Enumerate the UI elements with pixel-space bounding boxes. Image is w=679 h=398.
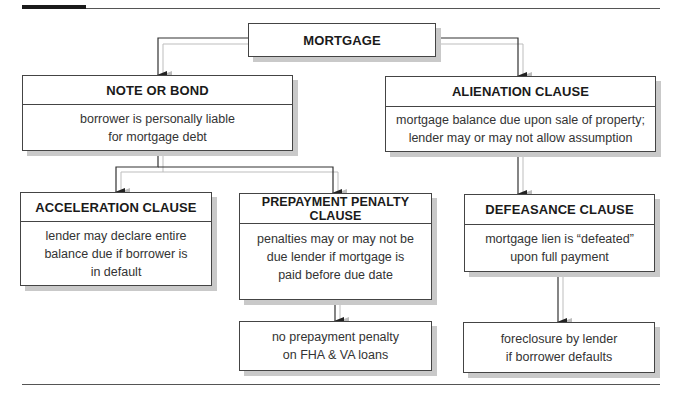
mortgage-title: MORTGAGE [249,24,435,56]
acceleration-clause-title: ACCELERATION CLAUSE [21,193,211,222]
alienation-line-2: lender may or may not allow assumption [396,129,645,147]
no-prepayment-line-2: on FHA & VA loans [272,346,399,364]
defeasance-line-1: mortgage lien is “defeated” [485,230,634,248]
no-prepayment-line-1: no prepayment penalty [272,328,399,346]
note-or-bond-line-2: for mortgage debt [80,128,235,146]
note-or-bond-description: borrower is personally liable for mortga… [23,105,292,150]
defeasance-clause-node: DEFEASANCE CLAUSE mortgage lien is “defe… [464,194,655,272]
defeasance-line-2: upon full payment [485,248,634,266]
alienation-clause-description: mortgage balance due upon sale of proper… [386,107,655,151]
note-or-bond-node: NOTE OR BOND borrower is personally liab… [22,75,293,151]
prepayment-line-3: paid before due date [257,266,414,284]
note-or-bond-line-1: borrower is personally liable [80,110,235,128]
no-prepayment-penalty-description: no prepayment penalty on FHA & VA loans [240,322,431,370]
prepayment-penalty-clause-title: PREPAYMENT PENALTY CLAUSE [240,194,431,224]
foreclosure-line-2: if borrower defaults [501,348,618,366]
note-or-bond-title: NOTE OR BOND [23,76,292,105]
defeasance-clause-title: DEFEASANCE CLAUSE [465,195,654,225]
prepayment-penalty-clause-description: penalties may or may not be due lender i… [240,224,431,299]
acceleration-clause-description: lender may declare entire balance due if… [21,222,211,285]
acceleration-clause-node: ACCELERATION CLAUSE lender may declare e… [20,192,212,286]
alienation-clause-node: ALIENATION CLAUSE mortgage balance due u… [385,76,656,152]
foreclosure-description: foreclosure by lender if borrower defaul… [464,323,654,372]
acceleration-line-1: lender may declare entire [44,227,187,245]
no-prepayment-penalty-node: no prepayment penalty on FHA & VA loans [239,321,432,371]
footer-rule [22,384,660,385]
mortgage-node: MORTGAGE [248,23,436,57]
edge-note-prepayment [158,167,333,193]
foreclosure-line-1: foreclosure by lender [501,330,618,348]
alienation-line-1: mortgage balance due upon sale of proper… [396,111,645,129]
prepayment-penalty-clause-node: PREPAYMENT PENALTY CLAUSE penalties may … [239,193,432,300]
acceleration-line-2: balance due if borrower is [44,245,187,263]
foreclosure-node: foreclosure by lender if borrower defaul… [463,322,655,373]
prepayment-line-1: penalties may or may not be [257,230,414,248]
prepayment-line-2: due lender if mortgage is [257,248,414,266]
alienation-clause-title: ALIENATION CLAUSE [386,77,655,107]
defeasance-clause-description: mortgage lien is “defeated” upon full pa… [465,225,654,271]
acceleration-line-3: in default [44,263,187,281]
